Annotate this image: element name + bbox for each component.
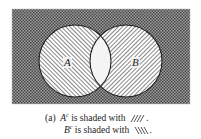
backward-hatch-swatch-icon xyxy=(134,127,150,134)
forward-hatch-swatch-icon xyxy=(130,115,146,122)
caption-line-2: Bc is shaded with . xyxy=(64,122,201,136)
venn-diagram: A B xyxy=(0,0,201,106)
set-b-label: B xyxy=(132,56,139,68)
set-a-label: A xyxy=(63,56,71,68)
caption-marker: (a) xyxy=(45,113,56,123)
caption-text: is shaded with xyxy=(72,125,129,135)
